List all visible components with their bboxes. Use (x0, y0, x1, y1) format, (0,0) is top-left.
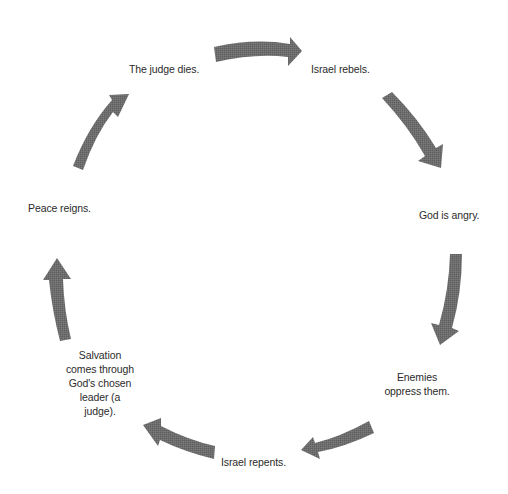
arrow-judge-dies-to-israel-rebels (214, 37, 302, 66)
enemies-oppress-line-1: Enemies (372, 370, 462, 384)
arrow-israel-rebels-to-god-angry (382, 92, 443, 168)
step-label-israel-repents: Israel repents. (221, 455, 286, 469)
step-label-salvation: Salvation comes through God's chosen lea… (56, 348, 144, 418)
step-label-god-angry: God is angry. (419, 208, 479, 222)
salvation-line-2: comes through (56, 362, 144, 376)
step-label-enemies-oppress: Enemies oppress them. (372, 370, 462, 398)
salvation-line-1: Salvation (56, 348, 144, 362)
step-label-judge-dies: The judge dies. (129, 62, 199, 76)
arrow-peace-reigns-to-judge-dies (73, 94, 129, 170)
arrow-israel-repents-to-salvation (143, 418, 215, 459)
step-label-peace-reigns: Peace reigns. (28, 201, 91, 215)
salvation-line-3: God's chosen (56, 376, 144, 390)
salvation-line-4: leader (a (56, 390, 144, 404)
arrow-salvation-to-peace-reigns (43, 258, 71, 341)
enemies-oppress-line-2: oppress them. (372, 384, 462, 398)
judges-cycle-diagram: The judge dies. Israel rebels. God is an… (0, 0, 508, 494)
salvation-line-5: judge). (56, 404, 144, 418)
cycle-arrows (0, 0, 508, 494)
arrow-enemies-oppress-to-israel-repents (301, 421, 374, 459)
step-label-israel-rebels: Israel rebels. (311, 62, 370, 76)
arrow-god-angry-to-enemies-oppress (431, 254, 462, 345)
